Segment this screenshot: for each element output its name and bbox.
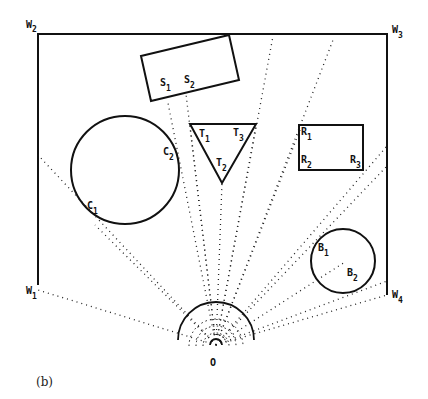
- svg-text:R3: R3: [350, 154, 361, 170]
- wall-labels: W2 W3 W1 W4: [26, 19, 403, 305]
- svg-text:R2: R2: [301, 154, 312, 170]
- svg-text:W1: W1: [26, 285, 37, 301]
- svg-text:R1: R1: [301, 126, 312, 142]
- svg-text:B2: B2: [347, 267, 358, 283]
- origin-arcs: [178, 302, 254, 346]
- obstacle-s-rectangle: [141, 35, 239, 101]
- visibility-diagram: W2 W3 W1 W4 S1 S2 T1 T2 T3 R1 R2 R3 C1 C…: [0, 0, 428, 399]
- svg-text:W2: W2: [26, 19, 37, 34]
- svg-text:B1: B1: [318, 242, 329, 258]
- svg-text:C2: C2: [163, 146, 174, 162]
- svg-text:W4: W4: [392, 289, 403, 305]
- svg-text:W3: W3: [392, 24, 403, 40]
- svg-text:S1: S1: [160, 77, 171, 93]
- figure-caption: (b): [36, 375, 53, 389]
- svg-text:S2: S2: [184, 74, 195, 90]
- obstacle-b-circle: [311, 229, 375, 293]
- svg-text:C1: C1: [87, 200, 98, 216]
- sight-lines: [38, 36, 387, 345]
- svg-text:T2: T2: [216, 157, 227, 173]
- svg-text:T3: T3: [233, 127, 244, 143]
- origin-label: O: [210, 357, 216, 368]
